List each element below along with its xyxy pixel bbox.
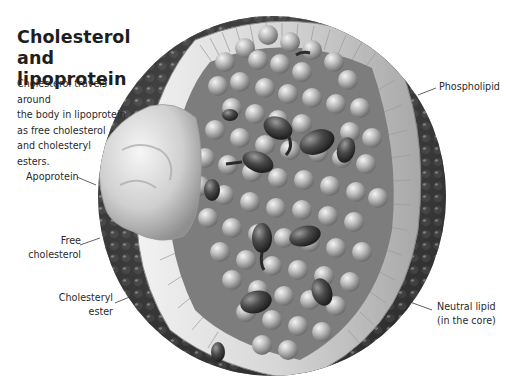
label-free-cholesterol: Free cholesterol — [20, 234, 81, 261]
label-phospholipid: Phospholipid — [439, 80, 500, 94]
intro-line: esters. — [17, 154, 142, 170]
intro-line: as free cholesterol — [17, 123, 142, 139]
intro-line: the body in lipoprotein — [17, 107, 142, 123]
label-neutral-lipid: Neutral lipid (in the core) — [437, 300, 496, 327]
title-line-1: Cholesterol and — [17, 27, 167, 69]
label-apoprotein: Apoprotein — [26, 170, 79, 184]
intro-line: and cholesteryl — [17, 138, 142, 154]
intro-line: Cholesterol travels around — [17, 76, 142, 107]
intro-text: Cholesterol travels around the body in l… — [17, 76, 142, 170]
label-cholesteryl-ester: Cholesteryl ester — [50, 291, 113, 318]
